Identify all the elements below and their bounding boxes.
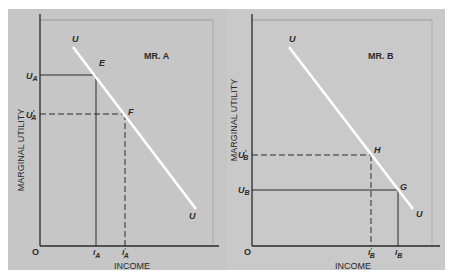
utility-curve xyxy=(73,47,196,209)
chart-title: MR. A xyxy=(144,51,170,61)
tick-ub-prime: U'B xyxy=(238,149,248,161)
chart-title: MR. B xyxy=(368,51,394,61)
chart-mr-a: U U MR. A E F UA U'A O IA I'A INCOME MAR… xyxy=(16,14,219,271)
chart-mr-b: U U MR. B H G U'B UB O I'B IB INCOME MAR… xyxy=(229,14,440,271)
curve-label-top: U xyxy=(289,34,296,44)
point-label-h: H xyxy=(374,145,381,155)
origin-label: O xyxy=(32,247,39,257)
tick-ua-prime: U'A xyxy=(26,109,36,121)
tick-ib: IB xyxy=(395,248,402,259)
diagram-canvas: U U MR. A E F UA U'A O IA I'A INCOME MAR… xyxy=(0,0,452,279)
curve-label-bottom: U xyxy=(189,211,196,221)
point-label-f: F xyxy=(128,107,134,117)
origin-label: O xyxy=(244,247,251,257)
point-label-g: G xyxy=(400,182,407,192)
tick-ia-prime: I'A xyxy=(122,247,129,259)
tick-ib-prime: I'B xyxy=(368,247,375,259)
y-axis-label: MARGINAL UTILITY xyxy=(229,79,239,162)
tick-ia: IA xyxy=(93,248,100,259)
tick-ub: UB xyxy=(238,185,250,196)
curve-label-top: U xyxy=(72,34,79,44)
point-label-e: E xyxy=(99,58,106,68)
utility-curve xyxy=(289,47,413,209)
y-axis-label: MARGINAL UTILITY xyxy=(16,109,26,192)
x-axis-label: INCOME xyxy=(114,261,150,271)
x-axis-label: INCOME xyxy=(335,261,371,271)
curve-label-bottom: U xyxy=(416,209,423,219)
tick-ua: UA xyxy=(26,71,38,82)
